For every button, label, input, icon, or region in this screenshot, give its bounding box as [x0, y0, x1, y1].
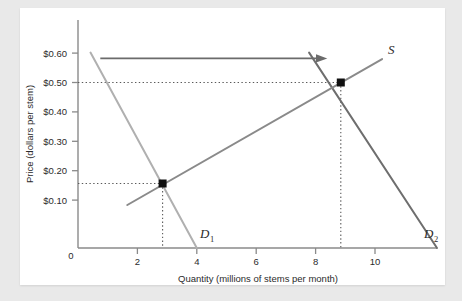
- y-tick-label-0.30: $0.30: [43, 136, 67, 147]
- x-axis-title: Quantity (millions of stems per month): [178, 273, 338, 284]
- curve-label-s: S: [388, 42, 395, 57]
- y-tick-label-0.10: $0.10: [43, 195, 67, 206]
- equilibrium-point-2: [337, 79, 345, 87]
- x-tick-label-8: 8: [313, 256, 318, 267]
- y-axis-title: Price (dollars per stem): [24, 85, 35, 183]
- x-tick-label-10: 10: [370, 256, 381, 267]
- demand-shift-arrow-head: [316, 54, 327, 62]
- x-tick-label-6: 6: [254, 256, 259, 267]
- y-ticks-group: $0.60 $0.50 $0.40 $0.30 $0.20 $0.10: [43, 48, 78, 206]
- origin-label: 0: [68, 250, 73, 261]
- equilibrium-point-1: [159, 180, 167, 188]
- x-ticks-group: 2 4 6 8 10: [135, 248, 381, 267]
- x-tick-label-4: 4: [194, 256, 199, 267]
- y-tick-label-0.50: $0.50: [43, 77, 67, 88]
- curve-label-d1: D1: [199, 226, 214, 244]
- axes-group: [78, 20, 437, 248]
- curve-label-d2: D2: [423, 226, 438, 244]
- dotted-guides-group: [78, 83, 341, 249]
- supply-demand-chart: $0.60 $0.50 $0.40 $0.30 $0.20 $0.10 2 4 …: [0, 0, 462, 301]
- demand-curve-d2: [309, 53, 437, 248]
- curve-label-d1-text: D: [199, 226, 210, 241]
- curves-group: [91, 53, 438, 248]
- y-tick-label-0.20: $0.20: [43, 165, 67, 176]
- y-tick-label-0.40: $0.40: [43, 106, 67, 117]
- chart-canvas: $0.60 $0.50 $0.40 $0.30 $0.20 $0.10 2 4 …: [0, 0, 462, 301]
- demand-shift-arrow: [100, 54, 327, 62]
- curve-label-d2-text: D: [423, 226, 434, 241]
- demand-curve-d1: [91, 53, 197, 248]
- curve-label-d2-subscript: 2: [434, 234, 438, 244]
- curve-label-d1-subscript: 1: [210, 234, 214, 244]
- x-tick-label-2: 2: [135, 256, 140, 267]
- y-tick-label-0.60: $0.60: [43, 48, 67, 59]
